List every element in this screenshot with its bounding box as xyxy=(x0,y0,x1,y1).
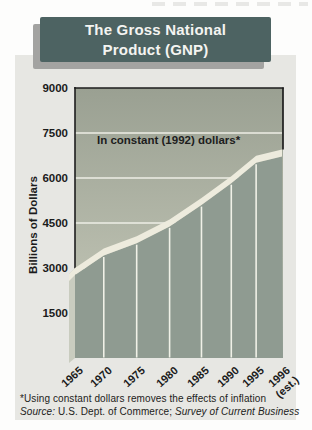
area-left-bevel xyxy=(69,268,75,363)
page: The Gross National Product (GNP) In cons… xyxy=(0,0,312,430)
source-publication: Survey of Current Business xyxy=(175,406,299,417)
y-tick-label-3000: 3000 xyxy=(26,263,68,275)
y-tick-label-4500: 4500 xyxy=(26,218,68,230)
y-tick-label-9000: 9000 xyxy=(26,83,68,95)
y-tick-label-6000: 6000 xyxy=(26,173,68,185)
footnote-asterisk: *Using constant dollars removes the effe… xyxy=(20,393,266,404)
gnp-area-chart xyxy=(0,0,312,430)
source-body: U.S. Dept. of Commerce; xyxy=(55,406,175,417)
source-label: Source: xyxy=(20,406,55,417)
chart-annotation: In constant (1992) dollars* xyxy=(97,134,240,146)
y-tick-label-1500: 1500 xyxy=(26,308,68,320)
y-tick-label-7500: 7500 xyxy=(26,128,68,140)
chart-title-line2: Product (GNP) xyxy=(103,40,209,60)
chart-title-box: The Gross National Product (GNP) xyxy=(40,17,271,62)
chart-title-line1: The Gross National xyxy=(85,20,226,40)
source-line: Source: U.S. Dept. of Commerce; Survey o… xyxy=(20,406,299,417)
